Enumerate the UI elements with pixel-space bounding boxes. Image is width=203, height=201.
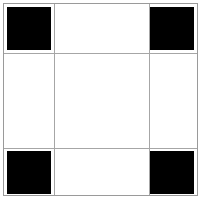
grid-cell-center[interactable] <box>55 54 149 148</box>
gridline-vertical-left <box>54 4 55 195</box>
grid-cell-marker-top-left[interactable] <box>7 7 51 50</box>
grid-cell-middle-right[interactable] <box>150 54 197 148</box>
grid-cell-marker-bottom-left[interactable] <box>7 151 51 194</box>
gridline-horizontal-top <box>4 53 197 54</box>
grid-cell-marker-bottom-right[interactable] <box>150 151 194 194</box>
grid-cell-marker-top-right[interactable] <box>150 7 194 50</box>
grid-frame <box>3 3 198 196</box>
grid-cell-top-center[interactable] <box>55 4 149 53</box>
gridline-horizontal-bottom <box>4 148 197 149</box>
grid-cell-bottom-center[interactable] <box>55 149 149 197</box>
screenshot-canvas <box>0 0 203 201</box>
grid-cell-middle-left[interactable] <box>4 54 54 148</box>
grid-surface <box>4 4 197 195</box>
gridline-vertical-right <box>149 4 150 195</box>
